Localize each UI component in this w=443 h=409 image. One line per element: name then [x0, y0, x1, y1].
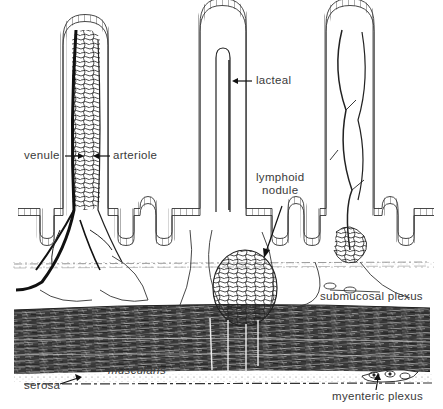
label-myenteric-plexus: myenteric plexus: [332, 391, 423, 403]
center-villus-lacteal: [216, 48, 230, 212]
label-venule: venule: [24, 150, 60, 162]
label-serosa: serosa: [24, 380, 60, 392]
diagram-illustration: [0, 0, 443, 409]
label-nodule: nodule: [262, 185, 298, 197]
label-submucosal-plexus: submucosal plexus: [320, 291, 423, 303]
label-muscularis: muscularis: [108, 365, 166, 377]
label-lacteal: lacteal: [256, 75, 291, 87]
lymphoid-nodule: [213, 250, 277, 326]
villi-diagram: venule arteriole lacteal lymphoid nodule…: [0, 0, 443, 409]
label-arteriole: arteriole: [113, 150, 157, 162]
right-villus-vessels: [330, 30, 367, 263]
label-lymphoid: lymphoid: [256, 172, 304, 184]
